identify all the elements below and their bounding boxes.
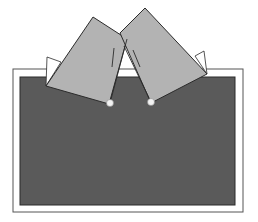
diagram-canvas <box>0 0 258 222</box>
pinned-cards-diagram <box>0 0 258 222</box>
right-pin-icon <box>148 99 155 106</box>
left-pin-icon <box>107 100 114 107</box>
dark-board <box>20 77 235 205</box>
